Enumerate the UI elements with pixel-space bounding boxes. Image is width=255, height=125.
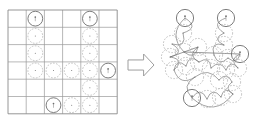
node-center-dot xyxy=(89,53,90,54)
node-center-dot xyxy=(223,32,224,33)
graph-edge xyxy=(199,60,211,68)
graph-node xyxy=(205,46,222,63)
graph-node xyxy=(165,61,182,78)
graph-node xyxy=(212,88,229,105)
node-center-dot xyxy=(173,69,174,70)
graph-node-anchor xyxy=(176,9,193,26)
node-marker-dot xyxy=(225,15,227,17)
graph-node xyxy=(210,71,227,88)
grid-node xyxy=(46,63,61,78)
grid-node-anchor xyxy=(28,11,43,26)
node-center-dot xyxy=(71,70,72,71)
node-center-dot xyxy=(194,76,195,77)
node-marker-dot xyxy=(107,68,109,70)
node-center-dot xyxy=(223,44,224,45)
node-center-dot xyxy=(71,105,72,106)
grid-node xyxy=(64,98,79,113)
node-marker-dot xyxy=(34,16,36,18)
node-center-dot xyxy=(171,43,172,44)
node-center-dot xyxy=(232,93,233,94)
grid-node xyxy=(83,80,98,95)
grid-node xyxy=(28,63,43,78)
node-center-dot xyxy=(220,96,221,97)
graph-edge xyxy=(226,64,238,70)
graph-node xyxy=(174,24,191,41)
graph-node-anchor xyxy=(217,9,234,26)
node-center-dot xyxy=(89,70,90,71)
grid-node xyxy=(83,46,98,61)
grid-node xyxy=(28,46,43,61)
node-center-dot xyxy=(237,67,238,68)
node-center-dot xyxy=(89,35,90,36)
node-center-dot xyxy=(185,65,186,66)
graph-edge xyxy=(228,82,233,94)
node-center-dot xyxy=(35,53,36,54)
graph-edge xyxy=(214,55,228,62)
node-center-dot xyxy=(89,105,90,106)
figure-svg xyxy=(0,0,255,125)
node-marker-dot xyxy=(53,103,55,105)
node-center-dot xyxy=(197,46,198,47)
graph-edge xyxy=(195,72,219,80)
grid-node-anchor xyxy=(101,63,116,78)
graph-node xyxy=(177,57,194,74)
grid-node-anchor xyxy=(83,11,98,26)
node-center-dot xyxy=(89,87,90,88)
graph-node xyxy=(224,85,241,102)
graph-edge xyxy=(218,33,225,45)
grid-node xyxy=(83,63,98,78)
grid-node-anchor xyxy=(46,98,61,113)
node-center-dot xyxy=(53,70,54,71)
graph-node xyxy=(189,38,206,55)
node-center-dot xyxy=(183,51,184,52)
graph-node xyxy=(161,48,178,65)
graph-node-anchor xyxy=(183,89,200,106)
node-center-dot xyxy=(210,67,211,68)
node-center-dot xyxy=(218,79,219,80)
grid-node xyxy=(83,29,98,44)
node-center-dot xyxy=(35,35,36,36)
grid-node xyxy=(83,98,98,113)
graph-edge xyxy=(211,64,226,70)
node-center-dot xyxy=(198,61,199,62)
graph-node-layer xyxy=(161,9,248,107)
node-center-dot xyxy=(182,32,183,33)
grid-node xyxy=(64,63,79,78)
node-center-dot xyxy=(231,81,232,82)
graph-edge xyxy=(207,92,221,99)
node-center-dot xyxy=(35,70,36,71)
node-marker-dot xyxy=(89,16,91,18)
arrow-icon xyxy=(128,54,154,76)
node-center-dot xyxy=(206,98,207,99)
node-center-dot xyxy=(225,69,226,70)
transform-arrow xyxy=(128,54,154,76)
figure-root xyxy=(0,0,255,125)
node-center-dot xyxy=(227,57,228,58)
graph-node xyxy=(186,68,203,85)
node-marker-dot xyxy=(184,15,186,17)
node-center-dot xyxy=(213,54,214,55)
node-marker-dot xyxy=(239,51,241,53)
grid-layer xyxy=(8,10,117,114)
node-marker-dot xyxy=(191,95,193,97)
node-center-dot xyxy=(169,56,170,57)
grid-node xyxy=(28,29,43,44)
